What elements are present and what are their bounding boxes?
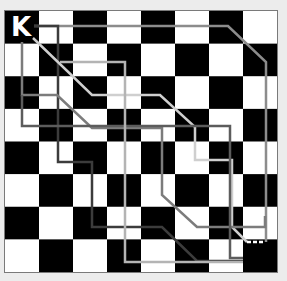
board-square bbox=[209, 11, 244, 44]
board-square bbox=[243, 11, 278, 44]
board-square bbox=[73, 207, 108, 240]
board-square bbox=[209, 174, 244, 207]
board-square bbox=[175, 76, 210, 109]
board-square bbox=[73, 239, 108, 272]
board-square bbox=[141, 11, 176, 44]
board-square bbox=[243, 109, 278, 142]
board-square bbox=[39, 174, 74, 207]
board-square bbox=[39, 142, 74, 175]
board-square bbox=[243, 239, 278, 272]
chessboard-figure: K bbox=[0, 0, 287, 281]
board-square bbox=[243, 174, 278, 207]
board-square bbox=[73, 174, 108, 207]
board-square bbox=[39, 239, 74, 272]
board-square bbox=[209, 44, 244, 77]
board-square bbox=[243, 76, 278, 109]
chessboard: K bbox=[0, 0, 287, 281]
board-square bbox=[175, 44, 210, 77]
board-square bbox=[5, 207, 40, 240]
board-square bbox=[73, 11, 108, 44]
board-square bbox=[5, 142, 40, 175]
board-square bbox=[39, 11, 74, 44]
board-square bbox=[73, 44, 108, 77]
board-square bbox=[175, 174, 210, 207]
board-square bbox=[39, 207, 74, 240]
board-square bbox=[209, 76, 244, 109]
board-square bbox=[141, 44, 176, 77]
board-square bbox=[209, 239, 244, 272]
board-square bbox=[175, 142, 210, 175]
board-square bbox=[5, 239, 40, 272]
board-square bbox=[5, 174, 40, 207]
board-square bbox=[107, 11, 142, 44]
board-square bbox=[209, 142, 244, 175]
knight-piece-label: K bbox=[11, 12, 32, 42]
board-square bbox=[175, 11, 210, 44]
board-square bbox=[141, 142, 176, 175]
board-square bbox=[73, 142, 108, 175]
board-square bbox=[243, 142, 278, 175]
board-square bbox=[243, 44, 278, 77]
board-square bbox=[243, 207, 278, 240]
board-square bbox=[141, 239, 176, 272]
